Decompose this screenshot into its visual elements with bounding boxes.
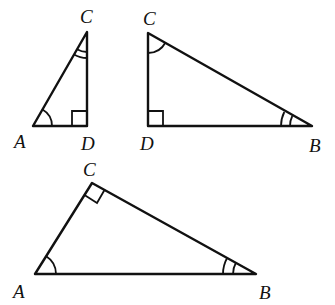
angle-arc-c-inner [77, 49, 87, 52]
triangle-acb: A C B [11, 159, 271, 303]
vertex-label-a: A [11, 281, 25, 302]
similar-triangles-diagram: A C D C D B A C B [0, 0, 335, 305]
triangle-acb-outline [35, 183, 256, 274]
angle-arc-a [46, 256, 56, 274]
vertex-label-c: C [83, 159, 96, 180]
vertex-label-b: B [309, 135, 321, 156]
triangle-cdb: C D B [139, 8, 321, 156]
angle-arc-a [43, 110, 53, 127]
vertex-label-c: C [80, 6, 93, 27]
right-angle-marker-d [148, 111, 163, 126]
vertex-label-b: B [259, 282, 271, 303]
angle-arc-b-inner [290, 116, 292, 126]
angle-arc-b-outer [281, 112, 284, 126]
angle-arc-b-outer [223, 258, 227, 274]
angle-arc-c-outer [74, 55, 87, 59]
right-angle-marker-d [72, 111, 87, 126]
angle-arc-b-inner [233, 263, 236, 274]
vertex-label-d: D [80, 133, 95, 154]
vertex-label-a: A [12, 131, 26, 152]
triangle-acd: A C D [12, 6, 95, 154]
angle-arc-c [148, 43, 166, 54]
vertex-label-c: C [143, 8, 156, 29]
triangle-cdb-outline [148, 33, 312, 126]
vertex-label-d: D [139, 133, 154, 154]
